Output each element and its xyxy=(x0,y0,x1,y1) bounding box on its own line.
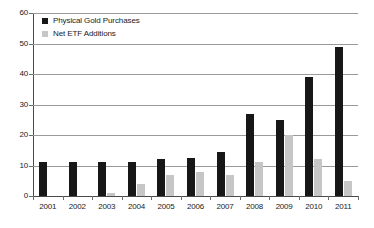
x-axis-tick-label: 2003 xyxy=(98,202,115,211)
chart-legend: Physical Gold PurchasesNet ETF Additions xyxy=(42,15,140,41)
x-axis-tick xyxy=(92,196,93,200)
y-axis-tick xyxy=(29,135,33,136)
x-axis-tick-label: 2007 xyxy=(217,202,234,211)
x-axis-tick xyxy=(269,196,270,200)
x-axis-tick xyxy=(358,196,359,200)
x-axis-tick xyxy=(299,196,300,200)
x-axis-tick xyxy=(122,196,123,200)
legend-swatch-icon xyxy=(42,31,48,37)
y-axis-tick xyxy=(29,44,33,45)
x-axis-tick xyxy=(210,196,211,200)
legend-swatch-icon xyxy=(42,18,48,24)
x-axis-tick-label: 2001 xyxy=(39,202,56,211)
x-axis-tick-label: 2006 xyxy=(187,202,204,211)
y-axis-tick xyxy=(29,74,33,75)
x-axis-tick-label: 2005 xyxy=(157,202,174,211)
x-axis-tick-label: 2002 xyxy=(69,202,86,211)
y-axis-tick xyxy=(29,166,33,167)
x-axis-tick-label: 2009 xyxy=(276,202,293,211)
x-axis-tick xyxy=(33,196,34,200)
x-axis-tick-label: 2004 xyxy=(128,202,145,211)
legend-item[interactable]: Net ETF Additions xyxy=(42,28,140,39)
legend-label: Physical Gold Purchases xyxy=(53,17,140,25)
x-axis-tick xyxy=(181,196,182,200)
x-axis-tick-label: 2008 xyxy=(246,202,263,211)
x-axis-tick xyxy=(240,196,241,200)
legend-item[interactable]: Physical Gold Purchases xyxy=(42,15,140,26)
x-axis-tick-label: 2010 xyxy=(305,202,322,211)
x-axis-tick-label: 2011 xyxy=(335,202,351,211)
x-axis-tick xyxy=(63,196,64,200)
y-axis-tick xyxy=(29,105,33,106)
x-axis-tick xyxy=(328,196,329,200)
legend-label: Net ETF Additions xyxy=(53,30,116,38)
x-axis-tick xyxy=(151,196,152,200)
y-axis-tick xyxy=(29,13,33,14)
bar-chart: 0102030405060 20012002200320042005200620… xyxy=(0,0,374,228)
